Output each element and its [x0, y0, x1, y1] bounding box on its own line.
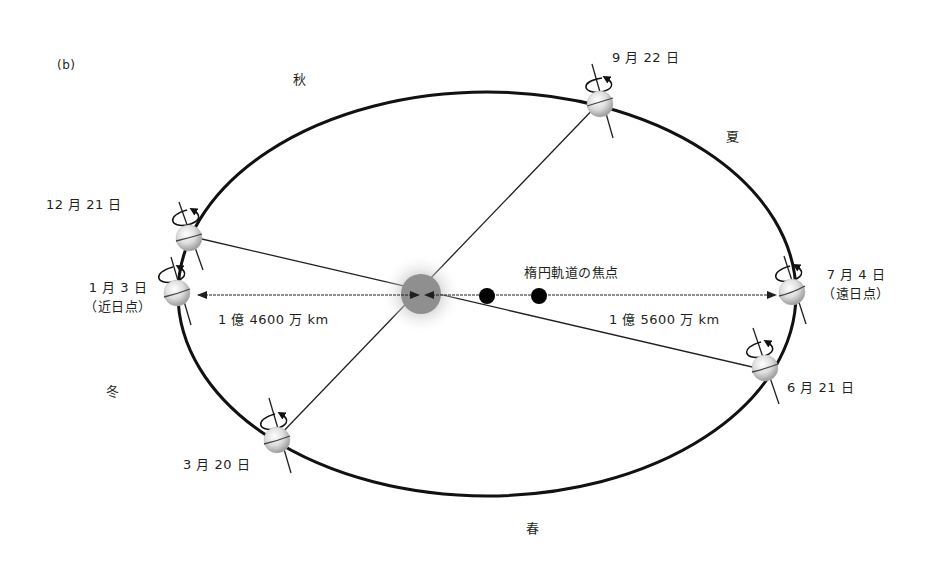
perihelion-distance-label: 1 億 4600 万 km [218, 309, 329, 328]
date-label-jul4: 7 月 4 日 （遠日点） [818, 264, 894, 302]
date-label-sep22: 9 月 22 日 [612, 47, 679, 66]
date-label-jun21: 6 月 21 日 [787, 377, 854, 396]
earth-dec21-icon [173, 202, 203, 270]
season-summer: 夏 [726, 126, 740, 145]
aphelion-note: （遠日点） [818, 283, 894, 302]
focus-label: 楕円軌道の焦点 [524, 262, 619, 281]
earth-mar20-icon [261, 398, 291, 473]
solstice-line [189, 236, 765, 370]
season-autumn: 秋 [293, 69, 307, 88]
perihelion-note: （近日点） [80, 296, 156, 315]
focus-dot-2 [531, 288, 547, 304]
earth-jan3-icon [159, 257, 191, 325]
earth-jun21-icon [747, 328, 779, 404]
season-spring: 春 [526, 518, 540, 537]
date-label-dec21: 12 月 21 日 [46, 194, 122, 213]
date-label-mar20: 3 月 20 日 [183, 454, 250, 473]
season-winter: 冬 [106, 381, 120, 400]
date-label-jan3: 1 月 3 日 （近日点） [80, 277, 156, 315]
earth-sep22-icon [586, 64, 613, 138]
focus-dot-1 [479, 288, 495, 304]
earth-jul4-icon [776, 256, 806, 324]
date-jul4: 7 月 4 日 [818, 264, 894, 283]
date-jan3: 1 月 3 日 [80, 277, 156, 296]
panel-label: (b) [57, 58, 75, 72]
aphelion-distance-label: 1 億 5600 万 km [609, 309, 720, 328]
sun-icon [401, 274, 441, 314]
